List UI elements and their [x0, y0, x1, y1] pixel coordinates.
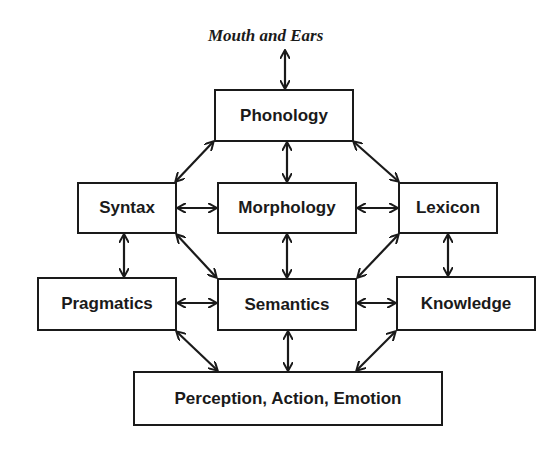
node-semantics: Semantics: [217, 278, 357, 331]
arrow-phonology-lexicon: [354, 142, 398, 181]
node-syntax: Syntax: [77, 182, 177, 234]
node-knowledge: Knowledge: [396, 276, 536, 331]
mouth-and-ears-label: Mouth and Ears: [208, 26, 323, 46]
arrow-pragmatics-perception: [177, 332, 217, 370]
node-phonology: Phonology: [214, 89, 354, 142]
language-architecture-diagram: Mouth and Ears Phonology Syntax Morpholo…: [0, 0, 560, 451]
node-lexicon: Lexicon: [398, 182, 498, 234]
arrow-syntax-semantics: [177, 235, 216, 277]
node-perception-action-emotion: Perception, Action, Emotion: [133, 371, 443, 426]
node-pragmatics: Pragmatics: [37, 277, 177, 331]
arrow-lexicon-semantics: [358, 235, 398, 277]
node-morphology: Morphology: [217, 182, 357, 234]
arrow-knowledge-perception: [357, 332, 395, 370]
arrow-phonology-syntax: [176, 142, 213, 181]
